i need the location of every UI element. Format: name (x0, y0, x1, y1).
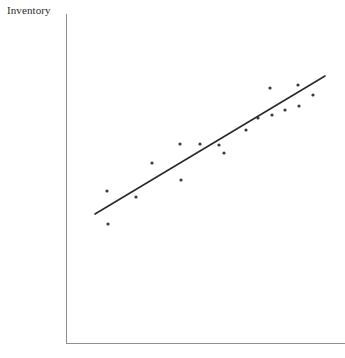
data-point (296, 83, 299, 86)
data-point (105, 189, 108, 192)
data-point (106, 222, 109, 225)
data-point (311, 93, 314, 96)
data-point (283, 108, 286, 111)
data-point (222, 151, 225, 154)
data-point (268, 86, 271, 89)
data-point (150, 161, 153, 164)
trend-line-group (95, 76, 325, 214)
data-point (297, 104, 300, 107)
data-point (198, 142, 201, 145)
data-point (244, 128, 247, 131)
data-point (178, 142, 181, 145)
data-point (270, 113, 273, 116)
data-points-group (105, 83, 314, 225)
data-point (134, 195, 137, 198)
regression-trend-line (95, 76, 325, 214)
data-point (217, 143, 220, 146)
data-point (256, 116, 259, 119)
scatter-plot-figure: Inventory (0, 0, 345, 358)
axes-group (66, 14, 345, 343)
data-point (179, 178, 182, 181)
plot-canvas (0, 0, 345, 358)
